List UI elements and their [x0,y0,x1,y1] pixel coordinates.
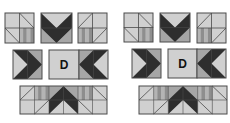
set-left: D [5,13,108,114]
chevron-down-block [160,13,190,42]
quarter-block-2 [197,13,226,43]
arrow-right-block [13,50,42,79]
quarter-block-2 [78,13,107,43]
arrow-left-block [79,50,108,79]
quarter-block-1 [124,13,153,42]
quarter-block-1 [5,13,34,43]
chevron-up-strip [139,86,227,114]
block-label: D [178,57,187,71]
arrow-left-block [197,49,226,78]
set-right: D [124,13,227,114]
chevron-down-block [41,13,72,43]
arrow-right-block [132,49,161,78]
quilt-canvas: DD [0,0,230,123]
quilt-diagram: DD [0,0,230,123]
label-block: D [168,49,197,78]
label-block: D [49,50,79,79]
block-label: D [60,58,69,72]
chevron-up-strip [20,86,107,114]
